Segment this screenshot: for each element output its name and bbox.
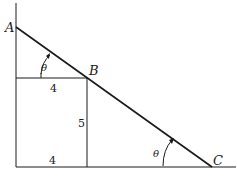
- theta-bottom-label: θ: [153, 148, 159, 159]
- hypotenuse-ac: [16, 27, 212, 167]
- length-bottom-4: 4: [49, 154, 56, 167]
- point-a-label: A: [4, 20, 14, 35]
- point-c-label: C: [213, 153, 223, 168]
- length-vertical-5: 5: [78, 117, 85, 130]
- geometry-diagram: A B C θ θ 4 5 4: [0, 0, 237, 180]
- length-top-4: 4: [50, 82, 57, 95]
- angle-arc-bottom: [163, 140, 172, 166]
- point-b-label: B: [88, 63, 99, 78]
- theta-top-label: θ: [41, 62, 47, 73]
